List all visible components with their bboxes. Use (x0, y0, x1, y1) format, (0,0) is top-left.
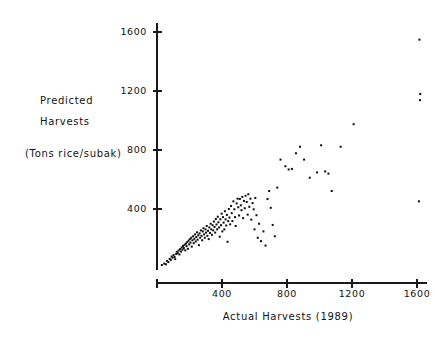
data-point (288, 168, 290, 170)
data-point (189, 242, 191, 244)
data-point (239, 198, 241, 200)
data-point (220, 224, 222, 226)
data-point (228, 208, 230, 210)
data-point (249, 198, 251, 200)
data-point (213, 221, 215, 223)
y-axis-tick-label: 1200 (120, 85, 147, 96)
y-axis-tick-label: 1600 (120, 26, 147, 37)
data-point (232, 200, 234, 202)
data-point (216, 228, 218, 230)
data-point (265, 245, 267, 247)
data-point (252, 202, 254, 204)
data-point (243, 200, 245, 202)
data-point (211, 234, 213, 236)
data-point (214, 232, 216, 234)
data-point (218, 226, 220, 228)
data-point (202, 227, 204, 229)
data-point (234, 216, 236, 218)
data-point (331, 190, 333, 192)
data-point (190, 237, 192, 239)
data-point (247, 193, 249, 195)
data-point (226, 214, 228, 216)
data-point (247, 214, 249, 216)
data-point (316, 171, 318, 173)
data-point (299, 146, 301, 148)
data-point (219, 218, 221, 220)
data-point (320, 144, 322, 146)
data-point (165, 263, 167, 265)
data-point (172, 257, 174, 259)
data-point (193, 242, 195, 244)
data-point (274, 235, 276, 237)
data-point (205, 232, 207, 234)
data-point (257, 237, 259, 239)
data-point (188, 243, 190, 245)
data-point (295, 152, 297, 154)
data-point (270, 207, 272, 209)
data-point (215, 223, 217, 225)
data-point (246, 201, 248, 203)
x-axis-tick-label: 1200 (339, 288, 366, 299)
data-point (309, 177, 311, 179)
data-point (201, 235, 203, 237)
data-point (210, 223, 212, 225)
data-point (204, 228, 206, 230)
x-axis-tick-label: 1600 (404, 288, 431, 299)
x-axis-title: Actual Harvests (1989) (223, 311, 354, 322)
data-point (224, 210, 226, 212)
data-point (254, 228, 256, 230)
data-point (212, 229, 214, 231)
data-point (191, 246, 193, 248)
data-point (254, 197, 256, 199)
data-point (227, 220, 229, 222)
data-point (253, 208, 255, 210)
data-point (200, 229, 202, 231)
data-point (419, 99, 421, 101)
y-axis-tick-label: 400 (127, 203, 147, 214)
data-point (235, 225, 237, 227)
data-point (223, 222, 225, 224)
data-point (241, 209, 243, 211)
data-point (225, 218, 227, 220)
data-point (174, 256, 176, 258)
data-point (197, 234, 199, 236)
data-point (258, 223, 260, 225)
data-point (250, 219, 252, 221)
data-point (194, 233, 196, 235)
data-point-layer (161, 39, 421, 266)
data-point (227, 241, 229, 243)
y-axis-tick-label: 800 (127, 144, 147, 155)
data-point (236, 202, 238, 204)
data-point (225, 225, 227, 227)
data-point (260, 240, 262, 242)
data-point (228, 217, 230, 219)
data-point (272, 224, 274, 226)
data-point (196, 231, 198, 233)
data-point (248, 206, 250, 208)
data-point (208, 226, 210, 228)
data-point (191, 239, 193, 241)
data-point (242, 217, 244, 219)
data-point (419, 93, 421, 95)
data-point (180, 250, 182, 252)
data-point (214, 226, 216, 228)
data-point (324, 170, 326, 172)
data-point (208, 238, 210, 240)
data-point (217, 221, 219, 223)
x-axis-tick-label: 400 (212, 288, 232, 299)
data-point (219, 236, 221, 238)
data-point (192, 235, 194, 237)
data-point (221, 230, 223, 232)
data-point (217, 216, 219, 218)
data-point (212, 224, 214, 226)
data-point (195, 236, 197, 238)
data-point (203, 233, 205, 235)
data-point (178, 253, 180, 255)
data-point (199, 237, 201, 239)
data-point (284, 165, 286, 167)
data-point (161, 264, 163, 266)
data-point (353, 123, 355, 125)
data-point (195, 240, 197, 242)
data-point (418, 39, 420, 41)
data-point (291, 168, 293, 170)
